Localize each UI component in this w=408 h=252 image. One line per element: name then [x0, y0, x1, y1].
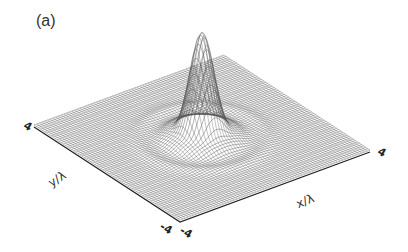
surface-plot: [0, 0, 408, 252]
surface-mesh: [34, 33, 370, 221]
panel-label: (a): [36, 12, 56, 30]
